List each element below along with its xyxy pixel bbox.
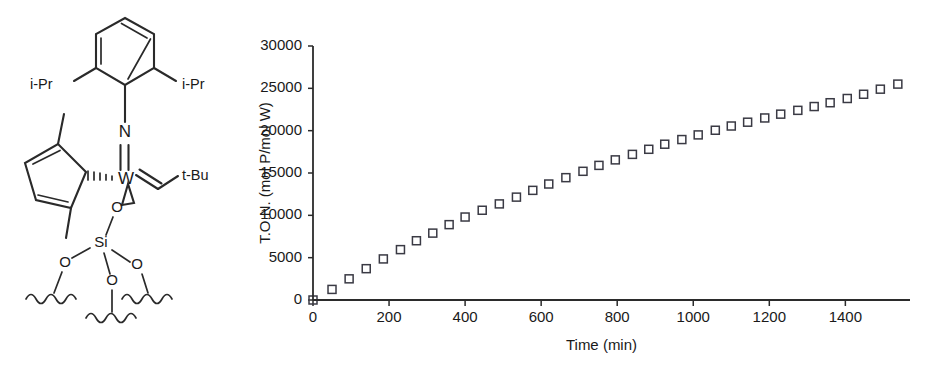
data-point (611, 156, 619, 164)
data-point (412, 237, 420, 245)
x-tick-label: 1400 (829, 308, 862, 325)
data-point (379, 255, 387, 263)
data-point (461, 213, 469, 221)
data-point (794, 106, 802, 114)
alkylidene (136, 170, 178, 190)
data-point (876, 85, 884, 93)
cyclopentadienyl-ring (25, 114, 86, 238)
data-point (678, 136, 686, 144)
bond-n-w-double (121, 145, 129, 170)
data-point (711, 126, 719, 134)
y-tick-label: 0 (294, 290, 302, 307)
data-markers (309, 80, 902, 304)
data-point (545, 180, 553, 188)
hashed-bond-cp-w (88, 171, 112, 180)
data-point (761, 114, 769, 122)
label-tbu: t-Bu (182, 167, 209, 183)
data-point (744, 118, 752, 126)
bond-si-o-right (112, 250, 130, 262)
data-point (860, 90, 868, 98)
chart-panel: 050001000015000200002500030000 020040060… (250, 0, 925, 369)
atom-label-o-mid: O (106, 271, 118, 288)
y-tick-label: 5000 (269, 248, 302, 265)
atom-label-n: N (119, 122, 131, 141)
data-point (478, 206, 486, 214)
atom-label-si: Si (94, 233, 107, 250)
data-point (529, 186, 537, 194)
bond-o-surface-right (142, 274, 148, 293)
bond-ipr-left (74, 68, 96, 81)
label-ipr-left: i-Pr (30, 76, 53, 92)
data-point (562, 174, 570, 182)
surface-squiggle-left (26, 295, 76, 304)
data-point (727, 122, 735, 130)
surface-squiggle-right (122, 295, 172, 304)
x-tick-label: 1000 (677, 308, 710, 325)
y-tick-label: 25000 (260, 78, 302, 95)
aryl-ring (96, 18, 154, 85)
data-point (579, 167, 587, 175)
x-axis-ticks: 0200400600800100012001400 (309, 300, 862, 325)
surface-squiggle-mid (86, 314, 136, 323)
atom-label-o-left: O (59, 253, 71, 270)
x-axis-title: Time (min) (566, 336, 637, 353)
data-point (512, 193, 520, 201)
data-point (628, 150, 636, 158)
y-tick-label: 30000 (260, 36, 302, 53)
data-point (843, 94, 851, 102)
x-tick-label: 0 (309, 308, 317, 325)
data-point (328, 285, 336, 293)
data-point (661, 140, 669, 148)
data-point (694, 131, 702, 139)
x-tick-label: 1200 (753, 308, 786, 325)
atom-label-o-right: O (131, 255, 143, 272)
data-point (894, 80, 902, 88)
data-point (595, 161, 603, 169)
bond-ipr-right (154, 68, 176, 81)
data-point (362, 265, 370, 273)
y-axis-title: T.O.N. (mol P/mol W) (256, 102, 273, 244)
label-ipr-right: i-Pr (182, 76, 205, 92)
data-point (777, 110, 785, 118)
x-tick-label: 400 (453, 308, 478, 325)
data-point (810, 103, 818, 111)
data-point (429, 229, 437, 237)
structure-panel: i-Pr i-Pr N W (0, 0, 250, 369)
data-point (445, 221, 453, 229)
figure-root: i-Pr i-Pr N W (0, 0, 925, 369)
atom-label-w: W (118, 169, 134, 188)
atom-label-o-siloxide: O (111, 198, 123, 215)
bond-o-surface-left (54, 272, 62, 293)
bond-si-o-left (72, 248, 90, 258)
x-tick-label: 200 (377, 308, 402, 325)
x-tick-label: 600 (529, 308, 554, 325)
structure-drawing: i-Pr i-Pr N W (0, 0, 250, 369)
data-point (826, 99, 834, 107)
data-point (495, 200, 503, 208)
data-point (396, 246, 404, 254)
x-tick-label: 800 (605, 308, 630, 325)
ton-vs-time-scatter-plot: 050001000015000200002500030000 020040060… (250, 0, 925, 369)
data-point (645, 145, 653, 153)
data-point (345, 275, 353, 283)
